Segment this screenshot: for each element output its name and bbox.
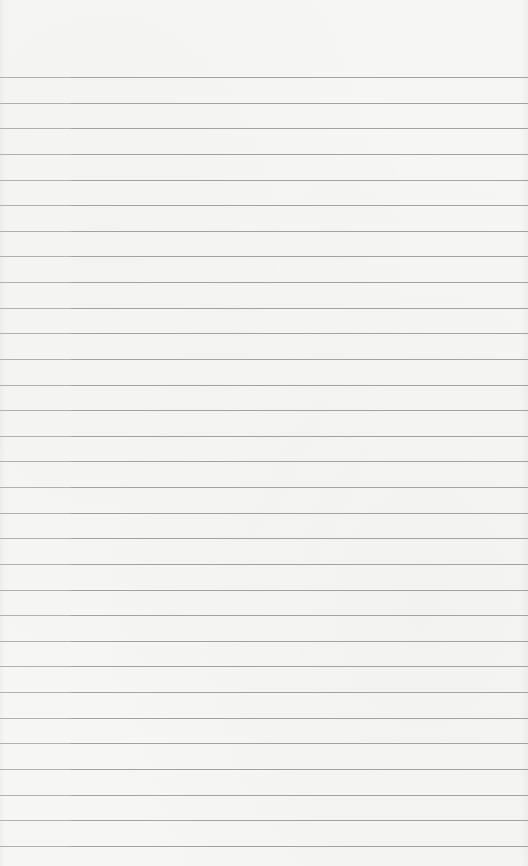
ruled-line bbox=[0, 513, 528, 514]
ruled-line bbox=[0, 308, 528, 309]
ruled-line bbox=[0, 743, 528, 744]
ruled-line bbox=[0, 692, 528, 693]
ruled-line bbox=[0, 769, 528, 770]
ruled-line bbox=[0, 154, 528, 155]
ruled-line bbox=[0, 615, 528, 616]
ruled-line bbox=[0, 180, 528, 181]
ruled-line bbox=[0, 718, 528, 719]
ruled-line bbox=[0, 461, 528, 462]
ruled-line bbox=[0, 333, 528, 334]
ruled-line bbox=[0, 282, 528, 283]
ruled-line bbox=[0, 564, 528, 565]
ruled-line bbox=[0, 77, 528, 78]
ruled-line bbox=[0, 103, 528, 104]
ruled-line bbox=[0, 231, 528, 232]
ruled-line bbox=[0, 128, 528, 129]
ruled-line bbox=[0, 487, 528, 488]
ruled-line bbox=[0, 205, 528, 206]
ruled-line bbox=[0, 846, 528, 847]
ruled-line bbox=[0, 666, 528, 667]
ruled-line bbox=[0, 436, 528, 437]
ruled-line bbox=[0, 795, 528, 796]
lined-paper bbox=[0, 0, 528, 866]
ruled-line bbox=[0, 641, 528, 642]
ruled-line bbox=[0, 256, 528, 257]
ruled-line bbox=[0, 410, 528, 411]
ruled-line bbox=[0, 385, 528, 386]
ruled-line bbox=[0, 820, 528, 821]
ruled-line bbox=[0, 359, 528, 360]
ruled-line bbox=[0, 590, 528, 591]
ruled-line bbox=[0, 538, 528, 539]
